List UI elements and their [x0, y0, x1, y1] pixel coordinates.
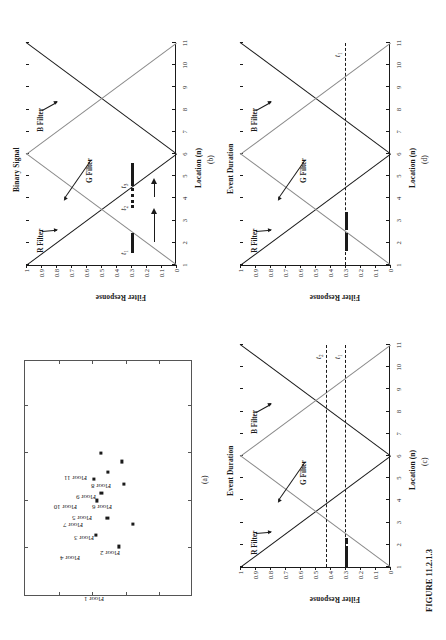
y-tick-label: 0.6	[297, 269, 304, 289]
filter-label-b: B Filter	[37, 108, 45, 132]
scatter-point	[120, 460, 123, 463]
frame-tick	[159, 592, 160, 595]
filter-label-b: B Filter	[251, 108, 259, 132]
x-tick-label: 10	[395, 364, 402, 371]
y-tick	[131, 265, 132, 268]
scatter-point-label: Floor 11	[64, 475, 87, 482]
filter-label-r: R Filter	[37, 229, 45, 253]
event-bar-label-t3: t3	[120, 184, 129, 189]
top-tick	[26, 175, 29, 176]
y-tick	[375, 265, 376, 268]
scatter-point	[106, 517, 109, 520]
y-tick	[345, 567, 346, 570]
y-tick	[255, 567, 256, 570]
top-tick	[26, 109, 29, 110]
y-tick	[116, 265, 117, 268]
filter-label-r: R Filter	[251, 531, 259, 555]
y-tick-label: 0.8	[53, 269, 60, 289]
event-bar-label-t1: t1	[120, 250, 129, 255]
x-tick	[386, 522, 389, 523]
top-tick	[26, 220, 29, 221]
y-tick	[270, 265, 271, 268]
y-tick-label: 0.9	[38, 269, 45, 289]
x-tick	[386, 411, 389, 412]
x-tick-label: 1	[395, 565, 402, 568]
scatter-point	[123, 483, 126, 486]
y-tick	[161, 265, 162, 268]
x-tick-label: 7	[395, 432, 402, 435]
x-tick	[386, 544, 389, 545]
top-tick	[26, 64, 29, 65]
panel-b-ylabel: Filter Response	[96, 293, 146, 302]
x-tick-label: 6	[395, 152, 402, 155]
frame-tick	[188, 547, 191, 548]
x-tick	[386, 175, 389, 176]
frame-tick	[126, 361, 127, 364]
x-tick	[386, 366, 389, 367]
y-tick-label: 0.3	[342, 269, 349, 289]
event-arrow-head-1	[151, 178, 157, 184]
x-tick	[386, 433, 389, 434]
panel-a: Floor 1Floor 2Floor 3Floor 4Floor 5Floor…	[18, 344, 214, 612]
event-bar-t3	[131, 163, 134, 186]
filter-label-arrowhead-g	[62, 196, 68, 202]
frame-tick	[92, 361, 93, 364]
y-tick	[330, 567, 331, 570]
y-tick-label: 0.4	[327, 269, 334, 289]
panel-d-plot-area: 123456789101100.10.20.30.40.50.60.70.80.…	[240, 44, 390, 266]
top-tick	[240, 522, 243, 523]
panel-a-plot-area: Floor 1Floor 2Floor 3Floor 4Floor 5Floor…	[24, 360, 192, 596]
y-tick-label: 0.4	[113, 269, 120, 289]
y-tick-label: 0.2	[357, 571, 364, 591]
y-tick	[390, 567, 391, 570]
scatter-point-label: Floor 5	[72, 515, 92, 522]
y-tick-label: 0.1	[372, 571, 379, 591]
panel-b-right-label: Binary Signal	[12, 147, 21, 192]
y-tick	[345, 265, 346, 268]
y-tick-label: 0.5	[98, 269, 105, 289]
frame-tick	[59, 361, 60, 364]
y-tick-label: 0	[173, 269, 180, 289]
y-tick-label: 0.7	[282, 571, 289, 591]
frame-tick	[92, 592, 93, 595]
x-tick	[386, 242, 389, 243]
scatter-point-label: Floor 9	[76, 494, 96, 501]
panel-a-label: (a)	[200, 476, 209, 484]
x-tick	[172, 220, 175, 221]
frame-tick	[159, 361, 160, 364]
x-tick	[386, 197, 389, 198]
y-tick	[315, 265, 316, 268]
y-tick	[285, 567, 286, 570]
x-tick-label: 10	[395, 62, 402, 69]
x-tick	[172, 197, 175, 198]
x-tick	[386, 86, 389, 87]
y-tick	[86, 265, 87, 268]
y-tick-label: 0.8	[267, 269, 274, 289]
top-tick	[240, 109, 243, 110]
scatter-point-label: Floor 10	[54, 504, 77, 511]
x-tick-label: 4	[181, 197, 188, 200]
duration-bar-0	[345, 234, 348, 252]
y-tick-label: 0.3	[342, 571, 349, 591]
x-tick	[386, 499, 389, 500]
panel-d-right-label: Event Duration	[226, 144, 235, 194]
y-tick	[176, 265, 177, 268]
x-tick-label: 8	[395, 108, 402, 111]
x-tick-label: 2	[395, 543, 402, 546]
x-tick	[172, 175, 175, 176]
y-tick	[300, 265, 301, 268]
x-tick	[172, 242, 175, 243]
x-tick-label: 9	[181, 86, 188, 89]
scatter-point	[99, 452, 102, 455]
filter-label-arrowhead-r	[267, 530, 271, 534]
top-tick	[240, 411, 243, 412]
figure-caption: FIGURE 11.2.1.3	[424, 549, 434, 612]
y-tick	[375, 567, 376, 570]
y-tick-label: 0.1	[158, 269, 165, 289]
panel-c-right-label: Event Duration	[226, 446, 235, 496]
x-tick-label: 2	[181, 241, 188, 244]
top-tick	[240, 131, 243, 132]
x-tick	[172, 86, 175, 87]
y-tick	[360, 567, 361, 570]
x-tick	[386, 109, 389, 110]
